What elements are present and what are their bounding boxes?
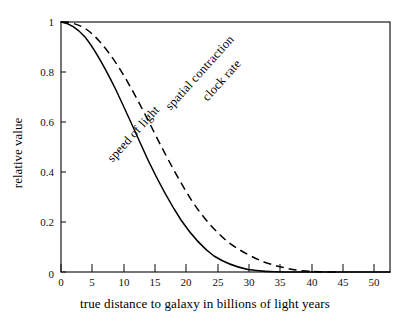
y-tick-label-0.4: 0.4	[30, 167, 54, 178]
x-axis-title: true distance to galaxy in billions of l…	[0, 296, 410, 312]
x-tick-label-15: 15	[150, 277, 161, 288]
x-tick-label-45: 45	[338, 277, 349, 288]
x-tick-label-25: 25	[213, 277, 224, 288]
y-tick-label-1: 1	[30, 17, 54, 28]
x-tick-label-5: 5	[89, 277, 95, 288]
x-tick-label-30: 30	[244, 277, 255, 288]
y-tick-label-0.2: 0.2	[30, 217, 54, 228]
x-tick-label-50: 50	[369, 277, 380, 288]
x-tick-label-10: 10	[119, 277, 130, 288]
y-axis-title: relative value	[10, 98, 26, 208]
chart-figure: 1 0.8 0.6 0.4 0.2 0 0 5 10 15 20 25 30 3…	[0, 0, 410, 325]
x-tick-label-35: 35	[275, 277, 286, 288]
y-tick-label-0: 0	[30, 269, 54, 280]
x-tick-label-20: 20	[181, 277, 192, 288]
x-tick-label-0: 0	[58, 277, 64, 288]
x-tick-label-40: 40	[307, 277, 318, 288]
y-tick-label-0.8: 0.8	[30, 67, 54, 78]
y-tick-label-0.6: 0.6	[30, 117, 54, 128]
